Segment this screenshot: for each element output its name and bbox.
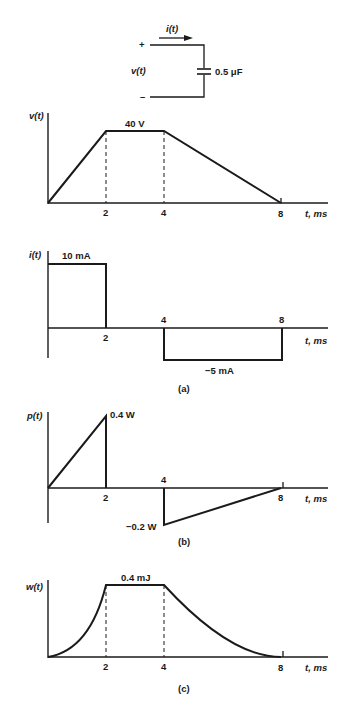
- voltage-label: v(t): [131, 65, 146, 76]
- time-axis-label: t, ms: [305, 662, 327, 673]
- current-negative-pulse: [164, 328, 282, 360]
- tick-label-4: 4: [161, 661, 167, 672]
- tick-label-2: 2: [103, 661, 108, 672]
- voltage-plot: v(t) 40 V 2 4 8 t, ms: [29, 110, 328, 219]
- voltage-ylabel: v(t): [29, 110, 44, 121]
- tick-label-2: 2: [103, 332, 108, 343]
- time-axis-label: t, ms: [305, 493, 327, 504]
- current-ylabel: i(t): [29, 249, 41, 260]
- tick-label-8: 8: [278, 492, 283, 503]
- tick-label-2: 2: [103, 207, 108, 218]
- power-negative-triangle: [164, 488, 281, 525]
- current-peak-label: 10 mA: [62, 250, 91, 261]
- tick-label-4: 4: [161, 314, 167, 325]
- caption-a: (a): [178, 383, 190, 394]
- energy-plot: w(t) 0.4 mJ 2 4 8 t, ms (c): [26, 572, 328, 694]
- plus-terminal: +: [139, 39, 145, 50]
- power-ylabel: p(t): [26, 410, 42, 421]
- current-plot: i(t) 10 mA −5 mA 2 4 8 t, ms (a): [29, 249, 328, 394]
- caption-c: (c): [178, 683, 190, 694]
- top-wire: [150, 45, 204, 68]
- tick-label-4: 4: [161, 207, 167, 218]
- time-axis-label: t, ms: [305, 335, 327, 346]
- current-neg-label: −5 mA: [205, 365, 234, 376]
- tick-label-8: 8: [279, 314, 284, 325]
- energy-peak-label: 0.4 mJ: [121, 572, 151, 583]
- bottom-wire: [150, 75, 204, 97]
- tick-label-2: 2: [103, 492, 108, 503]
- capacitance-label: 0.5 μF: [215, 66, 243, 77]
- current-positive-pulse: [48, 264, 106, 328]
- figure: i(t) + 0.5 μF v(t) – v(t) 40 V 2 4 8 t, …: [0, 0, 346, 707]
- power-neg-label: −0.2 W: [126, 521, 156, 532]
- power-peak-label: 0.4 W: [110, 409, 135, 420]
- energy-ylabel: w(t): [26, 581, 43, 592]
- tick-label-4: 4: [161, 474, 167, 485]
- current-arrow-icon: [159, 35, 193, 41]
- caption-b: (b): [178, 536, 190, 547]
- voltage-peak-label: 40 V: [125, 118, 145, 129]
- time-axis-label: t, ms: [305, 208, 327, 219]
- capacitor-circuit: i(t) + 0.5 μF v(t) –: [131, 23, 243, 102]
- power-plot: p(t) 0.4 W −0.2 W 2 4 8 t, ms (b): [26, 409, 328, 547]
- power-positive-triangle: [48, 416, 106, 488]
- tick-label-8: 8: [278, 208, 283, 219]
- current-label: i(t): [166, 23, 178, 34]
- capacitor-icon: [197, 69, 211, 74]
- minus-terminal: –: [140, 91, 145, 102]
- tick-label-8: 8: [278, 662, 283, 673]
